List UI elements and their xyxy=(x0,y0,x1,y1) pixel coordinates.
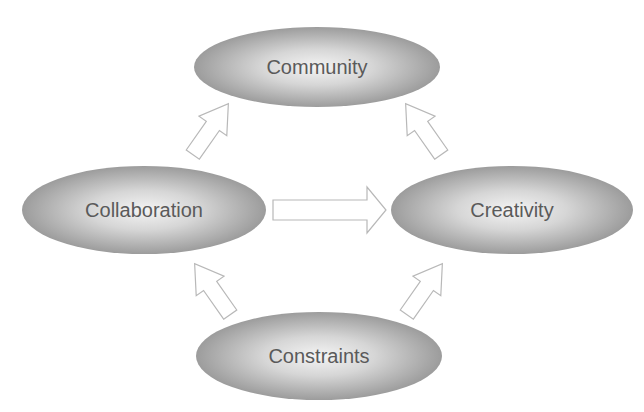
node-creativity-label: Creativity xyxy=(470,199,553,221)
node-collaboration: Collaboration xyxy=(22,166,266,254)
diagram-canvas: Community Collaboration Creativity Const… xyxy=(0,0,644,412)
arrow-constraints-to-collaboration xyxy=(181,254,244,324)
node-creativity: Creativity xyxy=(391,166,633,254)
node-constraints-label: Constraints xyxy=(268,345,369,367)
arrow-creativity-to-community xyxy=(392,94,455,164)
node-constraints: Constraints xyxy=(196,312,442,400)
node-community: Community xyxy=(194,27,440,107)
arrow-collaboration-to-creativity xyxy=(273,187,386,233)
arrow-constraints-to-creativity xyxy=(393,254,456,324)
node-community-label: Community xyxy=(266,56,367,78)
node-collaboration-label: Collaboration xyxy=(85,199,203,221)
arrow-collaboration-to-community xyxy=(179,94,242,164)
